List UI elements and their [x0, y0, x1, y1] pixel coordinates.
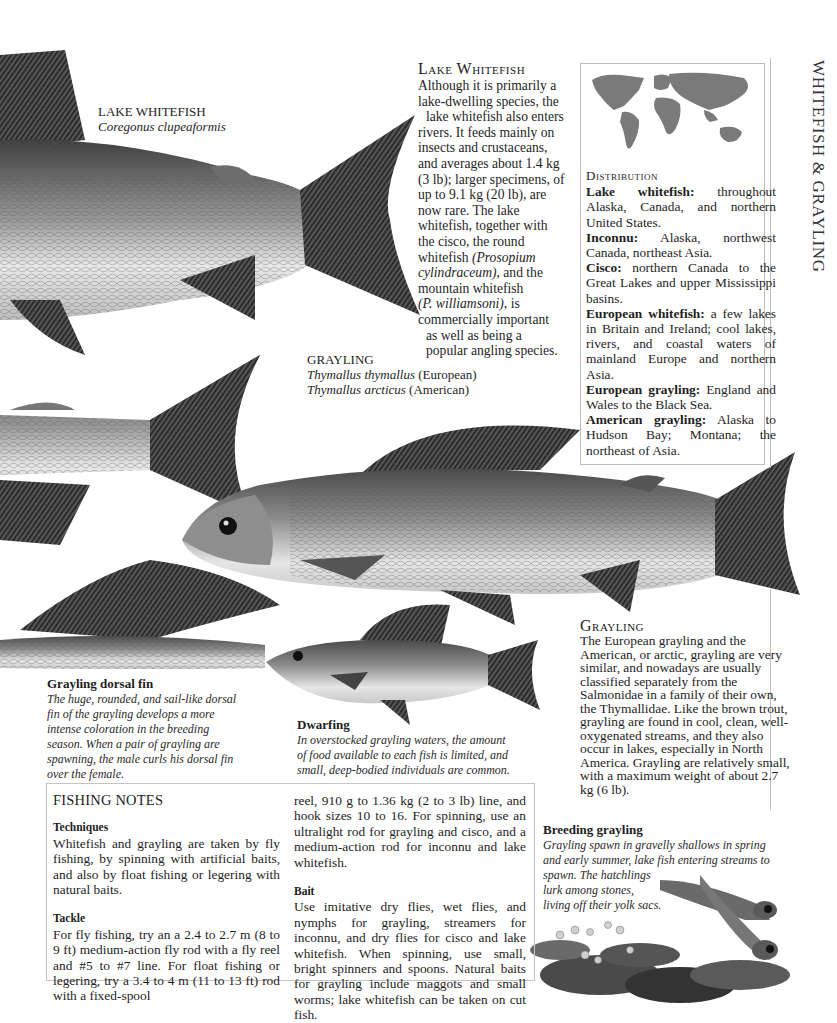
breeding-caption: Breeding grayling Grayling spawn in grav… [543, 822, 793, 913]
caption-line: Grayling spawn in gravelly shallows in s… [543, 838, 793, 853]
distribution-text: Distribution Lake whitefish: throughout … [586, 168, 776, 458]
caption-line: lurk among stones, [543, 883, 793, 898]
species-name: LAKE WHITEFISH [98, 104, 226, 119]
fishing-notes-column-2: reel, 910 g to 1.36 kg (2 to 3 lb) line,… [294, 793, 526, 1023]
article-line: whitefish (Prosopium [418, 250, 588, 266]
caption-line: living off their yolk sacs. [543, 898, 793, 913]
article-line: up to 9.1 kg (20 lb), are [418, 187, 588, 203]
species-name: GRAYLING [307, 352, 477, 367]
caption-title: Grayling dorsal fin [47, 676, 247, 692]
article-line: as well as being a [418, 328, 588, 344]
article-line: cylindraceum), and the [418, 265, 588, 281]
caption-title: Breeding grayling [543, 822, 793, 838]
tackle-heading: Tackle [53, 911, 280, 926]
dorsal-fin-caption: Grayling dorsal fin The huge, rounded, a… [47, 676, 247, 782]
fishing-notes-column-1: FISHING NOTES Techniques Whitefish and g… [53, 793, 280, 1004]
article-line: (3 lb); larger specimens, of [418, 172, 588, 188]
article-line: whitefish, together with [418, 218, 588, 234]
grayling-article: Grayling The European grayling and the A… [580, 618, 790, 796]
species-latin-line: Thymallus thymallus (European) [307, 367, 477, 382]
article-line: (P. williamsoni), is [418, 296, 588, 312]
distribution-entry: Cisco: northern Canada to the Great Lake… [586, 260, 776, 306]
grayling-label: GRAYLING Thymallus thymallus (European) … [307, 352, 477, 397]
chapter-title: WHITEFISH & GRAYLING [798, 60, 828, 300]
tackle-text-continued: reel, 910 g to 1.36 kg (2 to 3 lb) line,… [294, 793, 526, 870]
caption-title: Dwarfing [297, 717, 512, 733]
article-line: and averages about 1.4 kg [418, 156, 588, 172]
caption-text: The huge, rounded, and sail-like dorsal … [47, 692, 247, 782]
article-line: Although it is primarily a [418, 78, 588, 94]
techniques-text: Whitefish and grayling are taken by fly … [53, 836, 280, 898]
grayling-dorsal-fin-illustration [0, 560, 280, 669]
distribution-entry: European whitefish: a few lakes in Brita… [586, 306, 776, 382]
article-line: lake-dwelling species, the [418, 94, 588, 110]
article-line: now rare. The lake [418, 203, 588, 219]
caption-line: and early summer, lake fish entering str… [543, 853, 793, 868]
dwarfing-caption: Dwarfing In overstocked grayling waters,… [297, 717, 512, 778]
world-map-icon [584, 68, 756, 163]
article-line: rivers. It feeds mainly on [418, 125, 588, 141]
article-line: lake whitefish also enters [418, 109, 588, 125]
article-line: commercially important [418, 312, 588, 328]
tackle-text: For fly fishing, try an a 2.4 to 2.7 m (… [53, 927, 280, 1004]
species-latin-name: Coregonus clupeaformis [98, 119, 226, 134]
lake-whitefish-article: Lake Whitefish Although it is primarily … [418, 60, 588, 359]
bait-heading: Bait [294, 884, 526, 899]
article-heading: Grayling [580, 618, 790, 634]
lake-whitefish-label: LAKE WHITEFISH Coregonus clupeaformis [98, 104, 226, 134]
article-body: The European grayling and the American, … [580, 634, 790, 796]
article-heading: Lake Whitefish [418, 60, 588, 78]
article-line: insects and crustaceans, [418, 140, 588, 156]
lake-whitefish-illustration [0, 50, 420, 355]
caption-text: In overstocked grayling waters, the amou… [297, 733, 512, 778]
distribution-entry: American grayling: Alaska to Hudson Bay;… [586, 412, 776, 458]
bait-text: Use imitative dry flies, wet flies, and … [294, 899, 526, 1022]
distribution-entry: Lake whitefish: throughout Alaska, Canad… [586, 184, 776, 230]
distribution-entry: European grayling: England and Wales to … [586, 382, 776, 412]
species-latin-line: Thymallus arcticus (American) [307, 382, 477, 397]
distribution-heading: Distribution [586, 168, 776, 183]
distribution-entry: Inconnu: Alaska, northwest Canada, north… [586, 230, 776, 260]
caption-line: spawn. The hatchlings [543, 868, 793, 883]
dwarf-grayling-illustration [266, 604, 540, 725]
techniques-heading: Techniques [53, 820, 280, 835]
fishing-notes-title: FISHING NOTES [53, 793, 280, 808]
article-line: mountain whitefish [418, 281, 588, 297]
article-line: the cisco, the round [418, 234, 588, 250]
